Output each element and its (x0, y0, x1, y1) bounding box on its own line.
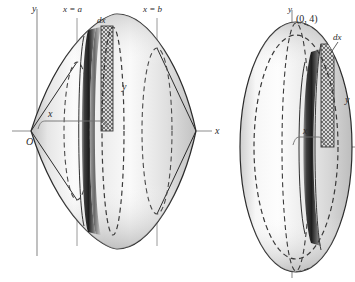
right-dx-label: dx (333, 32, 342, 42)
left-panel: y x O x = a x = b (12, 3, 220, 256)
right-solid-body (240, 22, 352, 272)
right-x-distance-label: x (302, 125, 308, 136)
label-x-equals-b: x = b (142, 4, 163, 14)
left-x-distance-label: x (47, 108, 53, 119)
left-x-axis-label: x (214, 125, 220, 136)
right-solid-vertical-shading (240, 22, 352, 272)
left-y-axis-label: y (31, 3, 37, 14)
label-x-equals-a: x = a (62, 4, 83, 14)
diagram-canvas: y x O x = a x = b (0, 0, 355, 282)
right-vertex-label: (0, 4) (296, 13, 318, 25)
right-panel: y O (0, 4) dx y (240, 4, 355, 278)
right-radius-label: y (344, 94, 350, 105)
right-y-axis-label: y (287, 4, 292, 14)
left-solid-vertical-shading (31, 14, 196, 249)
left-radius-label: y (121, 81, 127, 92)
left-solid-body (31, 14, 196, 249)
left-origin-label: O (26, 136, 33, 147)
right-slice-hatched-rectangle (321, 44, 334, 147)
right-dx-leader (330, 42, 338, 54)
solids-of-revolution-figure: y x O x = a x = b (0, 0, 355, 282)
left-dx-label: dx (97, 15, 106, 25)
